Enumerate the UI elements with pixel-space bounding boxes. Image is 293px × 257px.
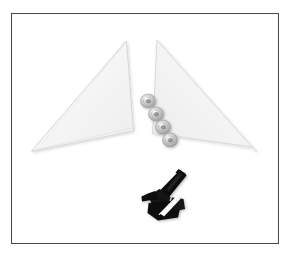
washer-2 — [149, 107, 164, 121]
parts-illustration — [13, 15, 277, 242]
washer-2-highlight — [152, 110, 157, 113]
photo-canvas — [13, 15, 277, 242]
washer-3-highlight — [159, 123, 164, 126]
washer-1-highlight — [144, 97, 149, 100]
washer-4-highlight — [166, 136, 171, 139]
washer-3 — [156, 120, 171, 134]
washer-1 — [141, 94, 156, 108]
screenshot-root — [0, 0, 293, 257]
washer-4 — [163, 133, 178, 147]
